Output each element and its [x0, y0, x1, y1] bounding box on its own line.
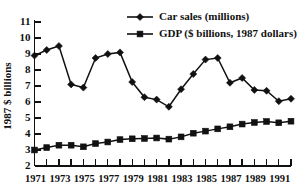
data-point	[32, 147, 38, 153]
y-tick-label: 10	[20, 31, 32, 43]
legend-label: GDP ($ billions, 1987 dollars)	[159, 27, 297, 40]
data-point	[129, 136, 135, 142]
x-tick-label: 1987	[220, 173, 241, 184]
y-axis-ticks	[35, 22, 41, 166]
data-point	[227, 124, 233, 130]
data-point	[239, 121, 245, 127]
data-point	[190, 130, 196, 136]
series-1	[31, 43, 295, 111]
square-marker	[137, 31, 143, 37]
data-point	[80, 144, 86, 150]
diamond-marker	[137, 14, 144, 21]
data-point	[56, 142, 62, 148]
data-point	[288, 118, 294, 124]
x-tick-label: 1971	[25, 173, 46, 184]
data-point	[43, 47, 50, 54]
chart-legend: Car sales (millions)GDP ($ billions, 198…	[127, 10, 297, 40]
x-tick-label: 1991	[269, 173, 290, 184]
data-point	[251, 120, 257, 126]
y-tick-label: 5	[25, 111, 31, 123]
x-tick-label: 1985	[196, 173, 217, 184]
x-tick-label: 1983	[172, 173, 193, 184]
legend-item: GDP ($ billions, 1987 dollars)	[127, 27, 297, 40]
y-tick-label: 3	[25, 143, 31, 155]
data-point	[44, 145, 50, 151]
x-tick-label: 1977	[98, 173, 119, 184]
data-point	[215, 126, 221, 132]
x-axis-ticks	[35, 159, 292, 166]
y-tick-label: 8	[25, 63, 31, 75]
x-tick-label: 1975	[74, 173, 95, 184]
data-point	[203, 128, 209, 134]
data-point	[105, 139, 111, 145]
data-point	[104, 51, 111, 58]
y-axis-title: 1987 $ billions	[1, 62, 13, 130]
x-tick-label: 1979	[123, 173, 144, 184]
data-point	[80, 84, 87, 91]
data-point	[92, 55, 99, 62]
y-axis-tick-labels: 234567891011	[20, 15, 32, 171]
data-point	[31, 52, 38, 59]
data-point	[68, 142, 74, 148]
legend-label: Car sales (millions)	[159, 10, 250, 23]
x-tick-label: 1989	[245, 173, 266, 184]
y-tick-label: 6	[25, 95, 31, 107]
y-tick-label: 9	[25, 47, 31, 59]
data-point	[288, 95, 295, 102]
series-layer	[31, 43, 295, 153]
data-point	[68, 81, 75, 88]
data-point	[142, 136, 148, 142]
y-tick-label: 2	[25, 159, 31, 171]
x-tick-label: 1973	[49, 173, 70, 184]
y-tick-label: 11	[20, 15, 30, 27]
data-point	[154, 135, 160, 141]
x-axis-tick-labels: 1971197319751977197919811983198519871989…	[25, 173, 290, 184]
data-point	[153, 96, 160, 103]
data-point	[93, 141, 99, 147]
x-tick-label: 1981	[147, 173, 168, 184]
y-tick-label: 7	[25, 79, 31, 91]
data-point	[178, 134, 184, 140]
series-line	[35, 46, 292, 107]
line-chart: 234567891011 197119731975197719791981198…	[0, 0, 298, 191]
data-point	[264, 119, 270, 125]
series-2	[32, 118, 294, 153]
chart-container: 234567891011 197119731975197719791981198…	[0, 0, 298, 191]
y-tick-label: 4	[25, 127, 31, 139]
legend-item: Car sales (millions)	[127, 10, 250, 23]
data-point	[214, 55, 221, 62]
data-point	[117, 49, 124, 56]
data-point	[226, 79, 233, 86]
data-point	[55, 43, 62, 50]
data-point	[166, 136, 172, 142]
data-point	[276, 120, 282, 126]
data-point	[117, 137, 123, 143]
